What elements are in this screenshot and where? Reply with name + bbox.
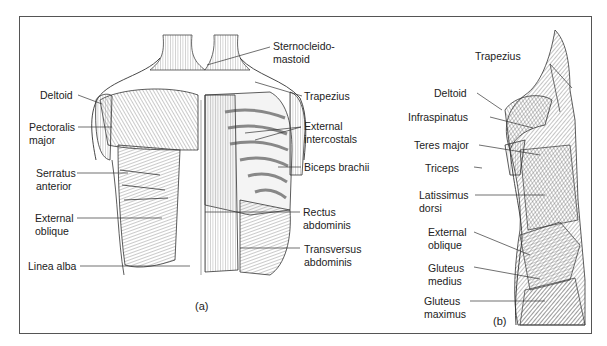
label-gluteus-maximus: Gluteusmaximus (424, 295, 466, 320)
label-external-oblique-a: Externaloblique (35, 212, 74, 237)
caption-a: (a) (195, 300, 208, 312)
label-teres-major: Teres major (414, 139, 469, 152)
label-gluteus-medius: Gluteusmedius (428, 262, 464, 287)
panel-a-torso (92, 35, 306, 275)
label-external-intercostals: Externalintercostals (304, 120, 357, 145)
label-biceps-brachii: Biceps brachii (304, 161, 369, 174)
label-trapezius-a: Trapezius (304, 90, 350, 103)
label-external-oblique-b: Externaloblique (428, 226, 467, 251)
label-rectus-abdominis: Rectusabdominis (303, 206, 351, 231)
label-pectoralis-major: Pectoralismajor (29, 121, 75, 146)
label-sternocleidomastoid: Sternocleido-mastoid (273, 40, 335, 65)
label-deltoid-a: Deltoid (40, 89, 73, 102)
label-infraspinatus: Infraspinatus (408, 111, 468, 124)
label-trapezius-b: Trapezius (475, 50, 521, 63)
label-triceps: Triceps (425, 162, 459, 175)
label-serratus-anterior: Serratusanterior (36, 167, 76, 192)
panel-b-back (505, 30, 585, 325)
label-deltoid-b: Deltoid (434, 87, 467, 100)
caption-b: (b) (493, 315, 506, 327)
label-latissimus-dorsi: Latissimusdorsi (419, 189, 469, 214)
label-linea-alba: Linea alba (28, 260, 76, 273)
label-transversus-abdominis: Transversusabdominis (304, 243, 361, 268)
